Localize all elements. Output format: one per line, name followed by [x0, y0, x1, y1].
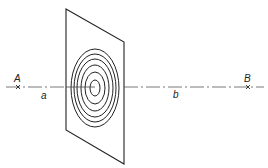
- label-distance-a: a: [41, 90, 47, 101]
- zone-plate-diagram: A a b B: [0, 0, 268, 168]
- label-distance-b: b: [173, 89, 179, 100]
- label-point-b: B: [244, 73, 251, 84]
- screen-plane: [66, 9, 124, 164]
- label-point-a: A: [13, 73, 21, 84]
